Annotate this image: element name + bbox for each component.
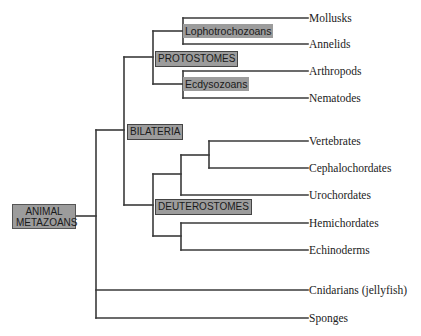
- taxon-sponges: Sponges: [309, 311, 348, 325]
- taxon-echinoderms: Echinoderms: [309, 243, 370, 257]
- taxon-cnidarians: Cnidarians (jellyfish): [309, 283, 407, 297]
- taxon-urochordates: Urochordates: [309, 188, 371, 202]
- root-label-animal-metazoans: ANIMAL METAZOANS: [12, 204, 76, 229]
- taxon-arthropods: Arthropods: [309, 64, 361, 78]
- root-label-line2: METAZOANS: [16, 217, 72, 228]
- clade-label-protostomes: PROTOSTOMES: [155, 51, 238, 67]
- phylogenetic-tree: ANIMAL METAZOANS BILATERIA PROTOSTOMES L…: [0, 0, 421, 336]
- clade-label-lophotrochozoans: Lophotrochozoans: [183, 24, 273, 38]
- taxon-cephalochordates: Cephalochordates: [309, 161, 391, 175]
- taxon-nematodes: Nematodes: [309, 91, 361, 105]
- taxon-vertebrates: Vertebrates: [309, 134, 361, 148]
- clade-label-deuterostomes: DEUTEROSTOMES: [155, 199, 252, 215]
- taxon-mollusks: Mollusks: [309, 11, 352, 25]
- root-label-line1: ANIMAL: [16, 206, 72, 217]
- taxon-annelids: Annelids: [309, 37, 351, 51]
- clade-label-bilateria: BILATERIA: [127, 124, 183, 140]
- clade-label-ecdysozoans: Ecdysozoans: [183, 77, 249, 91]
- taxon-hemichordates: Hemichordates: [309, 216, 379, 230]
